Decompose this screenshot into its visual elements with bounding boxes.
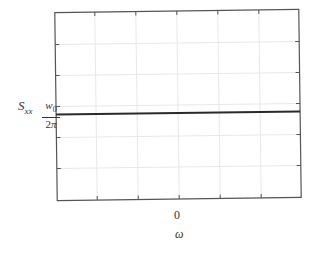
y-axis-label: Sxx (18, 98, 33, 116)
level-denominator: 2π (42, 118, 60, 131)
level-num-w: w (45, 99, 52, 111)
y-label-sub: xx (25, 106, 33, 116)
level-numerator: w0 (42, 99, 60, 118)
level-label: w0 2π (42, 99, 60, 131)
x-tick-zero: 0 (174, 208, 180, 223)
x-axis-label: ω (175, 227, 183, 242)
level-num-sub: 0 (53, 105, 57, 114)
grid (55, 9, 301, 200)
level-den-pi: π (51, 118, 57, 130)
